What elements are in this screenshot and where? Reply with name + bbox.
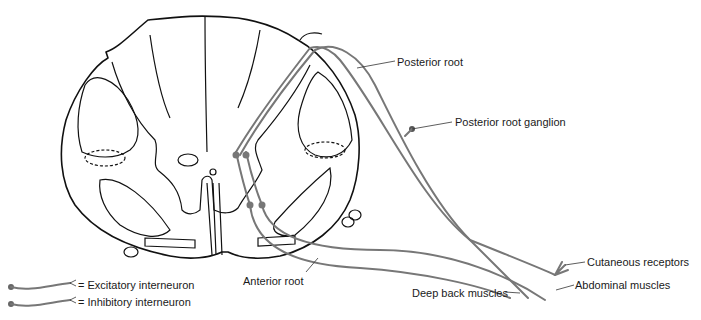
dorsal-column-line-right: [238, 30, 260, 108]
motor-neuron-soma-1: [247, 202, 254, 209]
central-canal: [210, 169, 216, 175]
interneuron-soma-2: [243, 152, 250, 159]
label-abdominal-muscles: Abdominal muscles: [575, 279, 670, 291]
anterior-median-fissure: [207, 183, 222, 255]
leader-cutaneous: [565, 262, 585, 265]
root-fragment-1: [124, 247, 138, 257]
posterior-root-fiber-inner: [236, 47, 555, 275]
leader-ganglion: [412, 122, 452, 129]
legend-inhibitory-label: = Inhibitory interneuron: [78, 296, 191, 308]
legend-excitatory-label: = Excitatory interneuron: [78, 279, 194, 291]
posterior-median-septum: [205, 16, 207, 152]
cutaneous-receptor-endings: [555, 262, 568, 275]
dashed-lamina-right: [305, 142, 345, 158]
ventral-bundle-left: [145, 238, 195, 248]
ganglion-stem: [405, 129, 412, 136]
gray-matter: [112, 62, 310, 214]
dorsal-rootlet-stub: [300, 33, 322, 40]
lateral-region-right: [298, 72, 352, 157]
label-anterior-root: Anterior root: [243, 275, 304, 287]
leader-abdominal: [556, 285, 574, 290]
label-posterior-root: Posterior root: [397, 56, 463, 68]
motor-neuron-soma-2: [259, 202, 266, 209]
label-deep-back-muscles: Deep back muscles: [412, 287, 508, 299]
label-posterior-root-ganglion: Posterior root ganglion: [455, 116, 566, 128]
gray-commissure-left: [178, 154, 198, 166]
lateral-region-left: [78, 78, 138, 157]
diagram-artwork: [0, 0, 701, 320]
label-cutaneous-receptors: Cutaneous receptors: [587, 256, 689, 268]
root-fragment-2: [342, 217, 354, 227]
legend-excitatory-axon: [11, 283, 70, 289]
dorsal-column-line-left: [150, 35, 170, 118]
dashed-lamina-left: [85, 150, 125, 166]
ventral-horn-right: [274, 168, 331, 236]
interneuron-soma-1: [233, 152, 240, 159]
ventral-horn-left: [100, 179, 170, 236]
legend-inhibitory-axon: [11, 300, 70, 306]
spinal-cord-diagram: Posterior root Posterior root ganglion C…: [0, 0, 701, 320]
root-fragment-3: [349, 210, 361, 220]
